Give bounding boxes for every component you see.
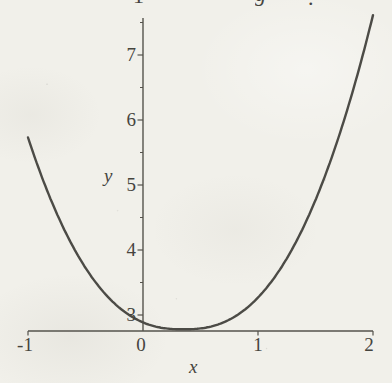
x-tick-label: 2 bbox=[353, 334, 385, 356]
y-tick-label: 5 bbox=[110, 174, 136, 196]
function-curve bbox=[28, 15, 373, 329]
y-tick-label: 3 bbox=[110, 304, 136, 326]
x-tick-label: 1 bbox=[242, 334, 274, 356]
scanned-figure-page: 1g. y x 34567-1012 bbox=[0, 0, 392, 383]
y-tick-label: 4 bbox=[110, 239, 136, 261]
curve-plot bbox=[0, 0, 392, 383]
y-tick-label: 7 bbox=[110, 44, 136, 66]
y-tick-label: 6 bbox=[110, 109, 136, 131]
x-tick-label: 0 bbox=[125, 334, 157, 356]
x-axis-title: x bbox=[189, 356, 197, 378]
x-tick-label: -1 bbox=[9, 334, 41, 356]
